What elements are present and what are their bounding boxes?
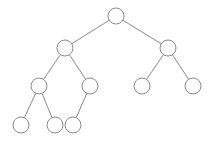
tree-edge (76, 93, 87, 117)
tree-node (13, 117, 29, 133)
tree-edge (72, 20, 109, 43)
binary-tree-diagram (0, 0, 212, 143)
tree-node (47, 117, 63, 133)
tree-node (82, 78, 98, 94)
tree-node (57, 40, 73, 56)
tree-edge (69, 55, 85, 80)
tree-node (31, 78, 47, 94)
tree-edge (123, 20, 161, 44)
tree-node (65, 117, 81, 133)
tree-node (134, 78, 150, 94)
tree-edges (24, 20, 188, 118)
tree-edge (42, 93, 52, 117)
tree-edge (147, 55, 164, 80)
tree-edge (44, 55, 61, 80)
tree-edge (172, 55, 188, 80)
tree-edge (24, 93, 35, 117)
tree-node (108, 8, 124, 24)
tree-node (160, 40, 176, 56)
tree-node (185, 78, 201, 94)
tree-nodes (13, 8, 201, 133)
